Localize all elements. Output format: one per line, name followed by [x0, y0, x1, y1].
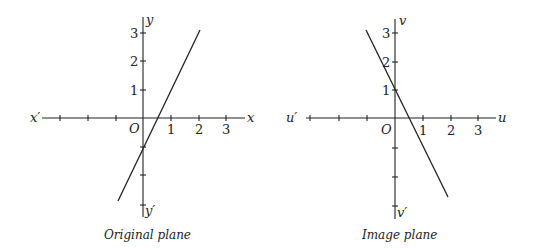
x-pos-label: x — [247, 110, 255, 125]
u-pos-label: u — [498, 110, 506, 125]
x-neg-label: x′ — [30, 110, 40, 125]
y-pos-label: y — [145, 12, 154, 27]
mapped-line — [366, 30, 448, 197]
y-tick-2: 2 — [130, 54, 138, 69]
origin-label: O — [381, 122, 392, 137]
original-plane-panel — [42, 17, 245, 217]
caption-original-plane: Original plane — [104, 228, 191, 242]
origin-label: O — [129, 121, 140, 136]
image-plane-panel — [306, 19, 496, 219]
u-tick-3: 3 — [474, 123, 482, 138]
v-tick-3: 3 — [382, 26, 390, 41]
v-tick-2: 2 — [382, 55, 390, 70]
y-tick-3: 3 — [130, 26, 138, 41]
v-neg-label: v′ — [397, 205, 407, 220]
v-pos-label: v — [399, 13, 407, 28]
v-tick-1: 1 — [382, 83, 390, 98]
x-tick-1: 1 — [167, 122, 175, 137]
x-tick-3: 3 — [222, 122, 230, 137]
u-neg-label: u′ — [286, 110, 297, 125]
caption-image-plane: Image plane — [361, 228, 437, 242]
y-neg-label: y′ — [144, 203, 155, 218]
y-tick-1: 1 — [130, 83, 138, 98]
diagram-canvas: x′ x y y′ O 1 2 3 1 2 3 Original plane u… — [0, 0, 533, 249]
u-tick-2: 2 — [447, 123, 455, 138]
x-tick-2: 2 — [195, 122, 203, 137]
u-tick-1: 1 — [419, 123, 427, 138]
